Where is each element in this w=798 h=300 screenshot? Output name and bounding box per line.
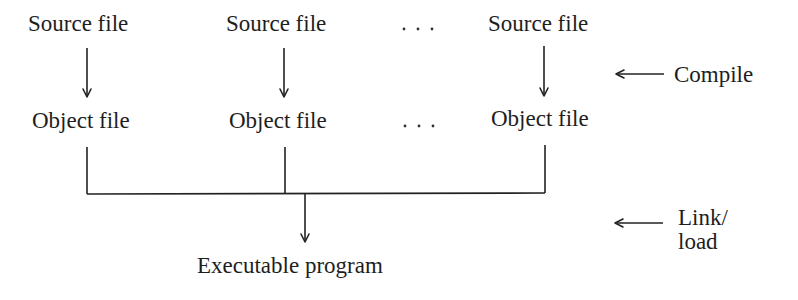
link-stage-label-line1: Link/ [678,205,728,230]
compile-link-diagram: Source file Source file Source file Comp… [0,0,798,300]
object-file-label-2: Object file [229,108,327,133]
left-arrow-icon [615,219,663,227]
source-file-label-1: Source file [28,11,128,36]
executable-program-label: Executable program [197,253,383,278]
down-arrow-icon [301,193,309,242]
down-arrow-icon [83,48,91,97]
source-file-label-3: Source file [488,11,588,36]
source-file-label-2: Source file [226,11,326,36]
left-arrow-icon [616,70,664,78]
merge-bracket [87,145,545,194]
compile-stage-label: Compile [674,62,753,87]
down-arrow-icon [540,46,548,96]
ellipsis-object-row [404,125,435,128]
ellipsis-source-row [403,28,434,31]
down-arrow-icon [280,48,288,97]
object-file-label-3: Object file [491,106,589,131]
object-file-label-1: Object file [32,108,130,133]
link-stage-label-line2: load [678,229,718,254]
